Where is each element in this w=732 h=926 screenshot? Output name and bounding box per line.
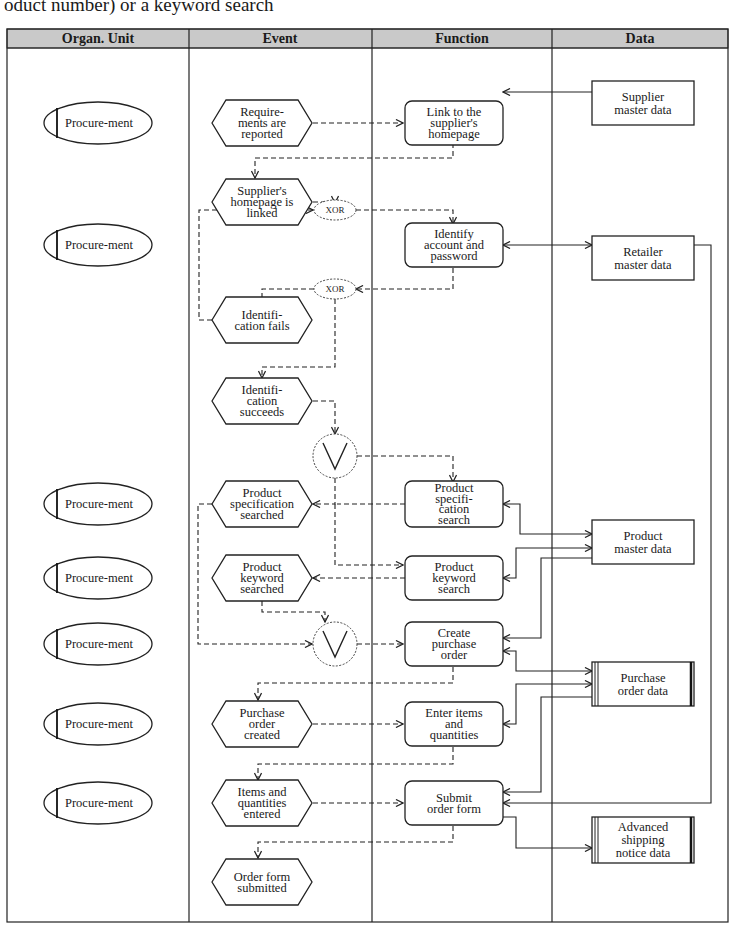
event-e8: Items andquantitiesentered bbox=[212, 780, 312, 826]
node-label-line: search bbox=[438, 513, 471, 527]
event-e1: Require-ments arereported bbox=[212, 100, 312, 146]
connector-label: XOR bbox=[325, 284, 344, 294]
node-label-line: order data bbox=[618, 684, 669, 698]
node-label-line: cation fails bbox=[234, 319, 289, 333]
node-label-line: searched bbox=[240, 508, 284, 522]
data-object-d3: Productmaster data bbox=[592, 520, 694, 564]
node-label-line: master data bbox=[614, 258, 672, 272]
function-f6: Enter itemsandquantities bbox=[405, 702, 503, 746]
node-label-line: notice data bbox=[616, 846, 671, 860]
header-data: Data bbox=[626, 31, 655, 46]
connector-xor: XOR bbox=[314, 200, 356, 220]
or-connector bbox=[313, 622, 357, 666]
event-e7: Purchaseordercreated bbox=[212, 701, 312, 747]
epc-diagram: Organ. Unit Event Function Data bbox=[0, 0, 732, 926]
node-label-line: Retailer bbox=[623, 245, 663, 259]
event-e5: Productspecificationsearched bbox=[212, 481, 312, 527]
org-unit: Procure-ment bbox=[44, 102, 152, 144]
node-label-line: entered bbox=[244, 807, 282, 821]
node-label-line: submitted bbox=[237, 881, 287, 895]
event-e4: Identifi-cationsucceeds bbox=[212, 378, 312, 424]
node-label-line: search bbox=[438, 582, 471, 596]
function-f7: Submitorder form bbox=[405, 781, 503, 825]
org-unit-label: Procure-ment bbox=[65, 717, 134, 731]
org-unit: Procure-ment bbox=[44, 623, 152, 665]
connector-or bbox=[313, 622, 357, 666]
or-connector bbox=[313, 434, 357, 478]
header-event: Event bbox=[263, 31, 298, 46]
information-flows bbox=[503, 92, 711, 848]
org-unit-label: Procure-ment bbox=[65, 637, 134, 651]
org-unit: Procure-ment bbox=[44, 224, 152, 266]
node-label-line: Product bbox=[624, 529, 663, 543]
org-unit: Procure-ment bbox=[44, 703, 152, 745]
node-label-line: Purchase bbox=[620, 671, 666, 685]
connector-xor: XOR bbox=[314, 279, 356, 299]
connectors: XORXOR bbox=[313, 200, 357, 666]
org-unit: Procure-ment bbox=[44, 483, 152, 525]
org-unit-label: Procure-ment bbox=[65, 796, 134, 810]
header-organ-unit: Organ. Unit bbox=[62, 31, 135, 46]
node-label-line: order form bbox=[427, 802, 481, 816]
function-f4: Productkeywordsearch bbox=[405, 556, 503, 600]
org-unit-label: Procure-ment bbox=[65, 571, 134, 585]
org-unit: Procure-ment bbox=[44, 782, 152, 824]
event-e6: Productkeywordsearched bbox=[212, 555, 312, 601]
org-unit-label: Procure-ment bbox=[65, 238, 134, 252]
data-objects: Suppliermaster dataRetailermaster dataPr… bbox=[592, 81, 694, 863]
data-object-d4: Purchaseorder data bbox=[592, 662, 694, 706]
node-label-line: created bbox=[244, 728, 281, 742]
functions: Link to thesupplier'shomepageIdentifyacc… bbox=[405, 101, 503, 825]
data-object-d2: Retailermaster data bbox=[592, 236, 694, 280]
org-unit-label: Procure-ment bbox=[65, 116, 134, 130]
node-label-line: shipping bbox=[621, 833, 665, 847]
node-label-line: master data bbox=[614, 542, 672, 556]
org-unit: Procure-ment bbox=[44, 557, 152, 599]
node-label-line: quantities bbox=[430, 728, 479, 742]
function-f1: Link to thesupplier'shomepage bbox=[405, 101, 503, 145]
org-units: Procure-mentProcure-mentProcure-mentProc… bbox=[44, 102, 152, 824]
header-function: Function bbox=[435, 31, 489, 46]
node-label-line: Supplier bbox=[622, 90, 665, 104]
event-e9: Order formsubmitted bbox=[212, 859, 312, 905]
node-label-line: master data bbox=[614, 103, 672, 117]
node-label-line: searched bbox=[240, 582, 284, 596]
function-f5: Createpurchaseorder bbox=[405, 622, 503, 666]
function-f2: Identifyaccount andpassword bbox=[405, 223, 503, 267]
function-f3: Productspecifi-cationsearch bbox=[405, 481, 503, 527]
node-label-line: reported bbox=[241, 127, 283, 141]
node-label-line: password bbox=[430, 249, 478, 263]
data-object-d5: Advancedshippingnotice data bbox=[592, 817, 694, 863]
node-label-line: homepage bbox=[428, 127, 480, 141]
node-label-line: succeeds bbox=[240, 405, 285, 419]
node-label-line: linked bbox=[246, 206, 278, 220]
node-label-line: Advanced bbox=[618, 820, 669, 834]
event-e3: Identifi-cation fails bbox=[212, 297, 312, 343]
node-label-line: order bbox=[441, 648, 468, 662]
connector-label: XOR bbox=[325, 205, 344, 215]
event-e2: Supplier'shomepage islinked bbox=[212, 179, 312, 225]
org-unit-label: Procure-ment bbox=[65, 497, 134, 511]
connector-or bbox=[313, 434, 357, 478]
events: Require-ments arereportedSupplier'shomep… bbox=[212, 100, 312, 905]
data-object-d1: Suppliermaster data bbox=[592, 81, 694, 125]
